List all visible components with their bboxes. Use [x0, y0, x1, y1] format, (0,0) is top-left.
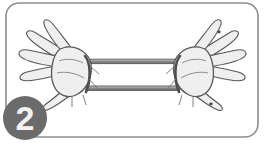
step-badge-label: 2: [16, 99, 35, 137]
fingertip-mark-lower: [209, 103, 212, 106]
step-illustration-figure: 2: [0, 0, 265, 146]
step-number-badge: 2: [3, 96, 47, 140]
illustration-canvas: 2: [0, 0, 265, 146]
fingertip-mark-upper: [217, 31, 220, 34]
